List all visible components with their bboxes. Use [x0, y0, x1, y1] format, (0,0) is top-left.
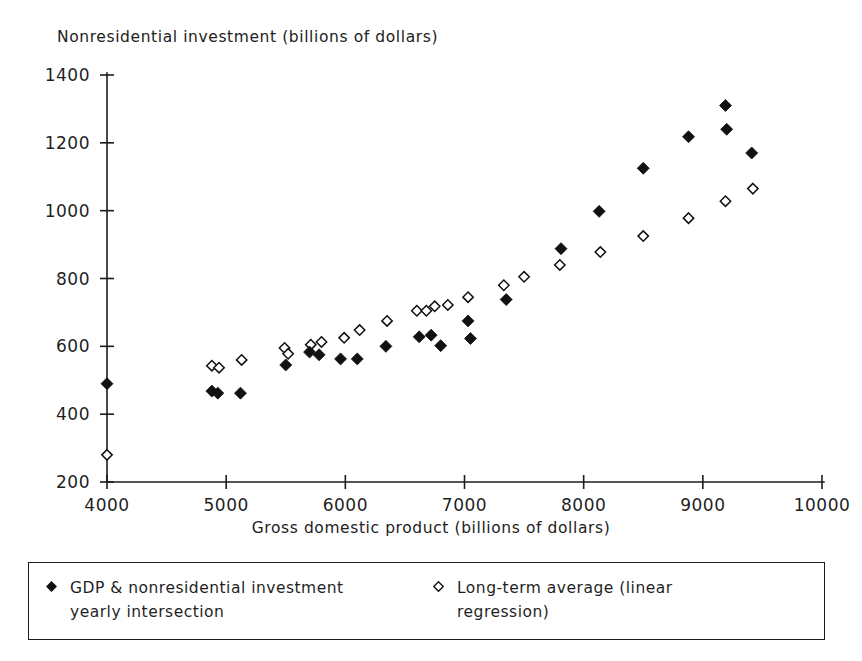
data-point-open	[339, 333, 349, 343]
data-point-open	[499, 280, 509, 290]
data-point-open	[316, 337, 326, 347]
data-point-open	[519, 272, 529, 282]
data-point-filled	[425, 329, 437, 341]
y-tick-label: 1200	[45, 133, 90, 153]
data-point-filled	[280, 359, 292, 371]
data-point-open	[463, 292, 473, 302]
data-point-filled	[721, 123, 733, 135]
x-tick-label: 9000	[680, 495, 725, 515]
data-point-filled	[351, 353, 363, 365]
data-point-open	[595, 247, 605, 257]
data-point-filled	[464, 333, 476, 345]
data-point-open	[555, 260, 565, 270]
x-tick-label: 5000	[204, 495, 249, 515]
data-point-filled	[555, 243, 567, 255]
legend-label-long-term-average: Long-term average (linear regression)	[457, 576, 673, 624]
data-point-open	[638, 231, 648, 241]
data-point-filled	[435, 340, 447, 352]
data-point-open	[748, 183, 758, 193]
data-point-filled	[380, 340, 392, 352]
data-point-filled	[746, 147, 758, 159]
y-tick-label: 800	[56, 269, 90, 289]
data-point-filled	[593, 205, 605, 217]
x-tick-labels: 40005000600070008000900010000	[84, 495, 850, 515]
data-point-open	[354, 325, 364, 335]
data-point-open	[443, 300, 453, 310]
x-tick-label: 6000	[323, 495, 368, 515]
series-long-term-average	[102, 183, 758, 460]
plot-area: 200400600800100012001400 400050006000700…	[0, 0, 862, 550]
data-point-filled	[234, 387, 246, 399]
axes-group	[100, 73, 824, 489]
scatter-chart-figure: Nonresidential investment (billions of d…	[0, 0, 862, 661]
data-point-open	[236, 355, 246, 365]
legend-label-gdp-investment: GDP & nonresidential investment yearly i…	[70, 576, 344, 624]
x-tick-label: 7000	[442, 495, 487, 515]
data-point-open	[382, 316, 392, 326]
data-point-filled	[683, 131, 695, 143]
filled-diamond-icon	[46, 581, 57, 592]
legend-item-long-term-average: Long-term average (linear regression)	[433, 576, 673, 624]
data-point-filled	[335, 353, 347, 365]
y-tick-label: 200	[56, 472, 90, 492]
data-point-open	[720, 196, 730, 206]
x-axis-title: Gross domestic product (billions of doll…	[0, 519, 862, 537]
y-tick-labels: 200400600800100012001400	[45, 65, 90, 492]
x-tick-label: 8000	[561, 495, 606, 515]
data-point-filled	[462, 315, 474, 327]
chart-legend: GDP & nonresidential investment yearly i…	[28, 562, 825, 640]
data-point-filled	[304, 346, 316, 358]
y-tick-label: 1000	[45, 201, 90, 221]
series-gdp-investment	[101, 100, 758, 400]
x-tick-label: 4000	[84, 495, 129, 515]
data-point-filled	[313, 349, 325, 361]
data-point-filled	[101, 378, 113, 390]
data-point-open	[683, 213, 693, 223]
y-tick-label: 1400	[45, 65, 90, 85]
data-point-filled	[500, 294, 512, 306]
legend-item-gdp-investment: GDP & nonresidential investment yearly i…	[46, 576, 344, 624]
y-tick-label: 400	[56, 404, 90, 424]
x-tick-label: 10000	[794, 495, 851, 515]
y-tick-label: 600	[56, 336, 90, 356]
data-point-open	[102, 450, 112, 460]
data-point-filled	[719, 100, 731, 112]
data-point-filled	[413, 331, 425, 343]
open-diamond-icon	[433, 581, 444, 592]
data-point-filled	[637, 162, 649, 174]
